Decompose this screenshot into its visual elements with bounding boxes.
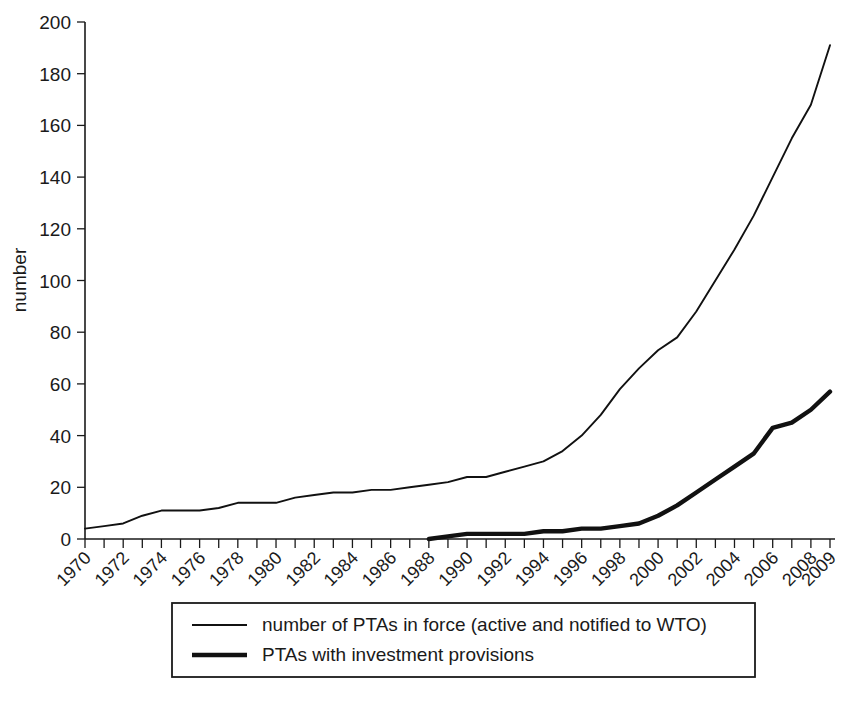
x-tick-label: 1974 (129, 548, 171, 590)
x-tick-label: 2002 (664, 548, 706, 590)
x-tick-label: 2004 (702, 548, 744, 590)
y-tick-label: 80 (50, 322, 71, 343)
chart-legend: number of PTAs in force (active and noti… (172, 603, 755, 677)
x-tick-label: 1986 (358, 548, 400, 590)
x-tick-label: 1976 (167, 548, 209, 590)
x-axis: 1970197219741976197819801982198419861988… (52, 539, 839, 590)
y-tick-label: 40 (50, 426, 71, 447)
y-tick-label: 180 (39, 64, 71, 85)
series-line-2 (429, 392, 830, 539)
y-tick-label: 60 (50, 374, 71, 395)
x-tick-label: 1998 (587, 548, 629, 590)
legend-label-2: PTAs with investment provisions (262, 644, 534, 665)
y-tick-label: 160 (39, 115, 71, 136)
x-tick-label: 1980 (243, 548, 285, 590)
legend-label-1: number of PTAs in force (active and noti… (262, 614, 707, 635)
x-tick-label: 2006 (740, 548, 782, 590)
y-tick-label: 0 (60, 529, 71, 550)
x-tick-label: 1982 (282, 548, 324, 590)
x-tick-label: 1994 (511, 548, 553, 590)
series-line-1 (85, 45, 830, 528)
y-tick-label: 200 (39, 12, 71, 33)
x-tick-label: 1992 (473, 548, 515, 590)
y-axis: 020406080100120140160180200number (9, 12, 85, 550)
x-tick-label: 1978 (205, 548, 247, 590)
data-series-group (85, 45, 830, 539)
x-tick-label: 1970 (52, 548, 94, 590)
y-tick-label: 120 (39, 219, 71, 240)
x-tick-label: 1996 (549, 548, 591, 590)
line-chart: 020406080100120140160180200number 197019… (0, 0, 861, 706)
x-tick-label: 1990 (434, 548, 476, 590)
x-tick-label: 1984 (320, 548, 362, 590)
x-tick-label: 1988 (396, 548, 438, 590)
x-tick-label: 2000 (625, 548, 667, 590)
chart-figure: 020406080100120140160180200number 197019… (0, 0, 861, 706)
x-tick-label: 1972 (91, 548, 133, 590)
y-tick-label: 100 (39, 271, 71, 292)
y-tick-label: 140 (39, 167, 71, 188)
y-axis-title: number (9, 247, 30, 312)
y-tick-label: 20 (50, 477, 71, 498)
